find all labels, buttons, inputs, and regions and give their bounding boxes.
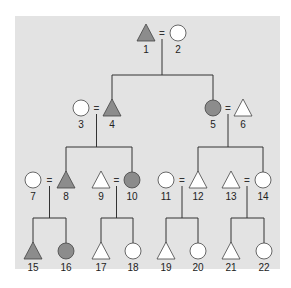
individual-label: 12 — [192, 191, 204, 202]
individual-label: 6 — [240, 119, 246, 130]
unaffected-female-circle-icon — [255, 172, 271, 188]
mating-symbol: = — [159, 28, 165, 39]
individual-label: 7 — [30, 191, 36, 202]
unaffected-female-circle-icon — [73, 100, 89, 116]
individual-label: 11 — [161, 191, 172, 202]
individual-label: 17 — [95, 262, 107, 273]
mating-symbol: = — [179, 175, 185, 186]
individual-label: 4 — [109, 119, 115, 130]
unaffected-male-triangle-icon — [92, 242, 110, 259]
individual-label: 8 — [63, 191, 69, 202]
affected-female-circle-icon — [124, 172, 140, 188]
individual-label: 9 — [98, 191, 104, 202]
unaffected-female-circle-icon — [190, 243, 206, 259]
pedigree-chart: =======123456789101112131415161718192021… — [0, 0, 291, 288]
unaffected-female-circle-icon — [256, 243, 272, 259]
individual-label: 1 — [143, 44, 149, 55]
individual-label: 14 — [257, 191, 269, 202]
individual-label: 10 — [126, 191, 138, 202]
affected-female-circle-icon — [205, 100, 221, 116]
affected-male-triangle-icon — [24, 242, 42, 259]
mating-symbol: = — [94, 103, 100, 114]
individual-label: 13 — [225, 191, 237, 202]
mating-symbol: = — [114, 175, 120, 186]
mating-symbol: = — [244, 175, 250, 186]
affected-male-triangle-icon — [137, 24, 155, 41]
individual-label: 16 — [60, 262, 72, 273]
unaffected-male-triangle-icon — [157, 242, 175, 259]
individual-label: 22 — [258, 262, 270, 273]
individual-label: 3 — [78, 119, 84, 130]
mating-symbol: = — [225, 103, 231, 114]
unaffected-male-triangle-icon — [189, 171, 207, 188]
affected-male-triangle-icon — [103, 99, 121, 116]
individual-label: 15 — [27, 262, 39, 273]
unaffected-female-circle-icon — [170, 25, 186, 41]
unaffected-female-circle-icon — [25, 172, 41, 188]
unaffected-female-circle-icon — [158, 172, 174, 188]
unaffected-female-circle-icon — [125, 243, 141, 259]
individual-label: 21 — [225, 262, 237, 273]
affected-male-triangle-icon — [57, 171, 75, 188]
individual-label: 2 — [175, 44, 181, 55]
individual-label: 5 — [210, 119, 216, 130]
unaffected-male-triangle-icon — [222, 171, 240, 188]
unaffected-male-triangle-icon — [222, 242, 240, 259]
unaffected-male-triangle-icon — [92, 171, 110, 188]
unaffected-male-triangle-icon — [234, 99, 252, 116]
individual-label: 20 — [192, 262, 204, 273]
affected-female-circle-icon — [58, 243, 74, 259]
individual-label: 18 — [127, 262, 139, 273]
individual-label: 19 — [160, 262, 172, 273]
mating-symbol: = — [47, 175, 53, 186]
